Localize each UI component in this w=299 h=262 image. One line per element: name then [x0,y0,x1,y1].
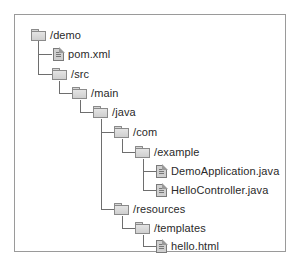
folder-icon [93,106,108,118]
tree-node-file-hello-html[interactable]: hello.html [154,238,219,254]
connector [122,152,135,153]
connector [122,139,123,153]
node-label: DemoApplication.java [171,165,279,177]
connector [59,93,72,94]
tree-node-file-hellocontroller[interactable]: HelloController.java [154,182,268,198]
file-tree: /demo pom.xml /src /main /java /com /exa… [0,0,299,262]
connector [38,41,39,75]
node-label: /templates [154,222,206,234]
file-icon [156,240,167,253]
node-label: /java [112,106,136,118]
folder-icon [114,203,129,215]
connector [38,54,52,55]
file-icon [156,165,167,178]
tree-node-file-demoapplication[interactable]: DemoApplication.java [154,163,279,179]
file-icon [156,184,167,197]
tree-node-folder-example[interactable]: /example [135,144,199,160]
tree-node-folder-com[interactable]: /com [114,124,157,140]
node-label: /main [91,87,118,99]
connector [38,74,52,75]
folder-icon [135,146,150,158]
node-label: pom.xml [68,48,110,60]
node-label: /resources [133,203,185,215]
folder-icon [135,222,150,234]
node-label: /com [133,126,157,138]
connector [122,228,135,229]
tree-node-folder-src[interactable]: /src [52,66,89,82]
connector [101,132,114,133]
tree-node-folder-main[interactable]: /main [72,85,118,101]
node-label: /demo [50,29,81,41]
folder-icon [114,126,129,138]
folder-icon [52,68,67,80]
node-label: HelloController.java [171,184,268,196]
folder-icon [72,87,87,99]
folder-icon [31,29,46,41]
connector [143,159,144,191]
node-label: /example [154,146,199,158]
node-label: hello.html [171,240,219,252]
tree-node-folder-templates[interactable]: /templates [135,220,206,236]
node-label: /src [71,68,89,80]
tree-node-folder-java[interactable]: /java [93,104,136,120]
connector [80,112,93,113]
connector [101,209,114,210]
tree-node-file-pom[interactable]: pom.xml [51,46,110,62]
file-icon [53,48,64,61]
tree-node-folder-demo[interactable]: /demo [31,27,81,43]
figure-caption [17,256,287,262]
tree-node-folder-resources[interactable]: /resources [114,201,185,217]
